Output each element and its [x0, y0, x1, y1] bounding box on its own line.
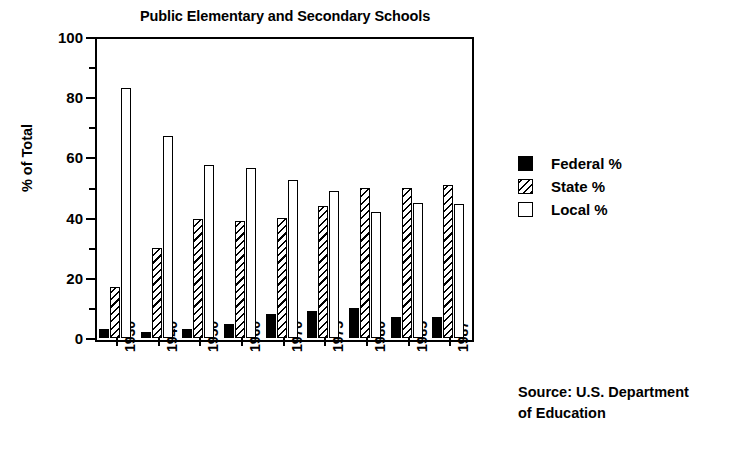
x-tick-mark-1940 — [158, 338, 160, 346]
y-tick-label: 0 — [75, 330, 83, 347]
bar-1985-federal — [391, 317, 401, 338]
legend-label: Local % — [551, 201, 608, 218]
y-tick-label: 100 — [58, 29, 83, 46]
x-tick-mark-1970 — [283, 338, 285, 346]
y-axis-label: % of Total — [19, 103, 35, 213]
bar-1980-local — [371, 212, 381, 338]
y-tick-mark — [89, 308, 95, 310]
y-tick-mark — [86, 278, 95, 280]
x-tick-mark-1960 — [241, 338, 243, 346]
y-tick-mark — [86, 338, 95, 340]
bar-1960-state — [235, 221, 245, 338]
bar-1975-local — [329, 191, 339, 338]
bar-1970-local — [288, 180, 298, 338]
bar-1970-state — [277, 218, 287, 338]
y-tick-mark — [89, 188, 95, 190]
y-tick-mark — [86, 97, 95, 99]
x-tick-mark-1975 — [324, 338, 326, 346]
y-tick-mark — [89, 127, 95, 129]
bar-1950-state — [193, 219, 203, 338]
bar-1970-federal — [266, 314, 276, 338]
legend-swatch-state-icon — [518, 179, 533, 194]
bar-1930-state — [110, 287, 120, 338]
bar-1940-federal — [141, 332, 151, 338]
y-tick-label: 40 — [66, 209, 83, 226]
bar-1960-local — [246, 168, 256, 338]
chart-figure: Public Elementary and Secondary Schools … — [0, 0, 755, 450]
bar-1975-state — [318, 206, 328, 338]
y-tick-mark — [89, 248, 95, 250]
y-tick-mark — [89, 67, 95, 69]
bar-1985-state — [402, 188, 412, 339]
bar-1940-state — [152, 248, 162, 338]
bar-1987-state — [443, 185, 453, 339]
legend-item-local[interactable]: Local % — [518, 198, 622, 221]
legend-item-federal[interactable]: Federal % — [518, 152, 622, 175]
y-tick-mark — [86, 218, 95, 220]
y-tick-label: 80 — [66, 89, 83, 106]
bar-1987-local — [454, 204, 464, 338]
bar-1950-federal — [182, 329, 192, 338]
legend-label: State % — [551, 178, 605, 195]
x-tick-mark-1985 — [408, 338, 410, 346]
source-line-2: of Education — [518, 403, 748, 424]
bar-1987-federal — [432, 317, 442, 338]
bar-1940-local — [163, 136, 173, 338]
source-note: Source: U.S. Department of Education — [518, 382, 748, 424]
y-tick-mark — [86, 157, 95, 159]
bar-1930-federal — [99, 329, 109, 338]
plot-area: 020406080100 193019401950196019701975198… — [95, 37, 470, 338]
bar-1975-federal — [307, 311, 317, 338]
x-tick-mark-1980 — [366, 338, 368, 346]
bar-1950-local — [204, 165, 214, 338]
x-tick-mark-1950 — [199, 338, 201, 346]
legend-label: Federal % — [551, 155, 622, 172]
chart-title: Public Elementary and Secondary Schools — [95, 8, 475, 24]
legend: Federal %State %Local % — [518, 152, 622, 221]
bar-1960-federal — [224, 324, 234, 338]
legend-swatch-federal-icon — [518, 156, 533, 171]
y-tick-label: 20 — [66, 269, 83, 286]
bar-1980-state — [360, 188, 370, 339]
bar-1985-local — [413, 203, 423, 338]
y-tick-label: 60 — [66, 149, 83, 166]
bar-1930-local — [121, 88, 131, 338]
source-line-1: Source: U.S. Department — [518, 382, 748, 403]
y-tick-mark — [86, 37, 95, 39]
x-tick-mark-1930 — [116, 338, 118, 346]
legend-item-state[interactable]: State % — [518, 175, 622, 198]
legend-swatch-local-icon — [518, 202, 533, 217]
x-tick-mark-1987 — [449, 338, 451, 346]
bar-1980-federal — [349, 308, 359, 338]
